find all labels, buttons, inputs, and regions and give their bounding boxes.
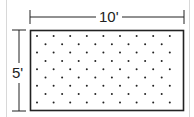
height-label: 5': [12, 63, 23, 83]
rectangle: [31, 31, 184, 111]
width-label: 10': [96, 9, 122, 25]
